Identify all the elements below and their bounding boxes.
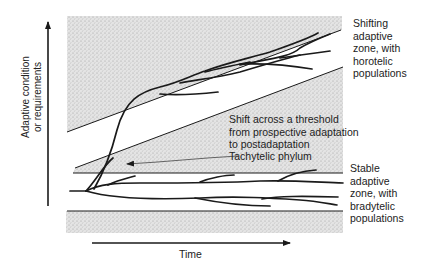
y-axis-label-line1: Adaptive condition bbox=[20, 32, 32, 162]
stable-zone-label: Stable adaptive zone, with bradytelic po… bbox=[350, 162, 404, 225]
y-axis-label: Adaptive condition or requirements bbox=[20, 32, 43, 162]
x-axis-label: Time bbox=[179, 248, 202, 261]
shifting-zone-label: Shifting adaptive zone, with horotelic p… bbox=[353, 17, 407, 80]
threshold-label: Shift across a threshold from prospectiv… bbox=[229, 113, 359, 151]
tachytelic-label: Tachytelic phylum bbox=[229, 150, 312, 163]
y-axis-label-line2: or requirements bbox=[32, 32, 44, 162]
lower-stippled-region bbox=[66, 211, 343, 233]
